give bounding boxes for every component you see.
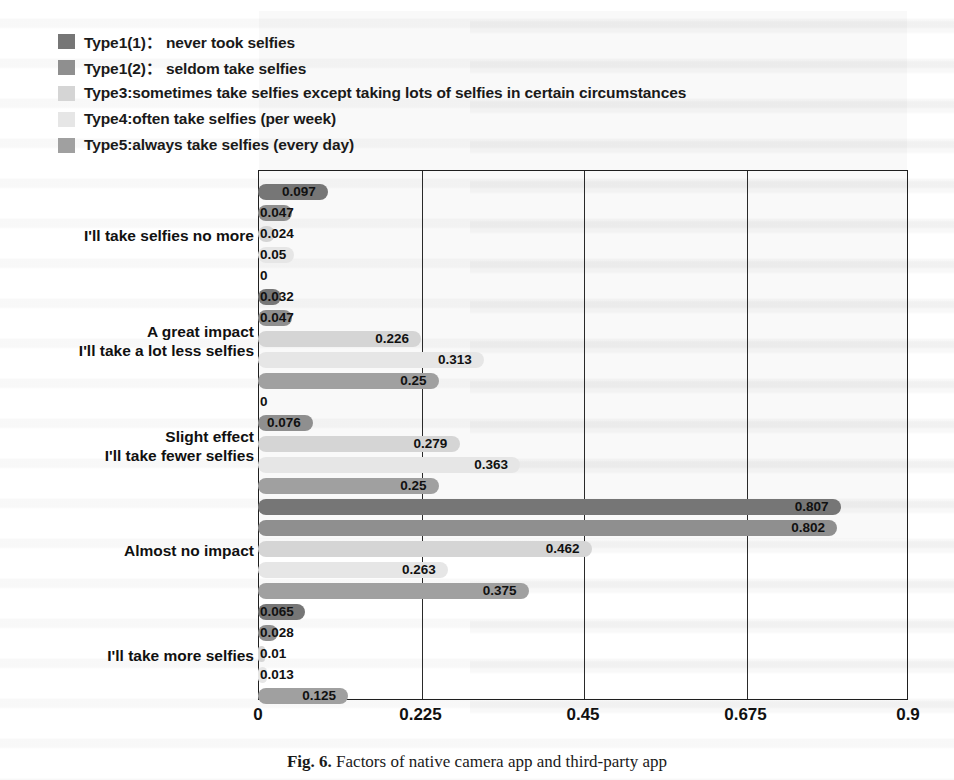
x-tick-label: 0 [253,705,262,725]
bar-value-label: 0.802 [791,519,825,537]
bar-value-label: 0 [260,267,268,285]
chart-legend: Type1(1)： never took selfiesType1(2)： se… [58,28,686,158]
bar-value-label: 0.313 [438,351,472,369]
bar-value-label: 0.076 [267,414,301,432]
bar-value-label: 0.01 [260,645,286,663]
category-label-line: I'll take fewer selfies [24,446,254,465]
legend-label: Type1(2)： seldom take selfies [84,56,306,78]
figure-caption-text: Factors of native camera app and third-p… [336,752,667,771]
bar-value-label: 0.25 [400,372,426,390]
bar-value-label: 0.013 [260,666,294,684]
bar-value-label: 0.279 [414,435,448,453]
bar[interactable] [258,520,837,536]
bar-value-label: 0.125 [302,687,336,705]
category-label-line: I'll take a lot less selfies [24,341,254,360]
bar-value-label: 0.807 [795,498,829,516]
category-label: I'll take more selfies [24,646,254,665]
category-label-line: Slight effect [24,427,254,446]
gridline-0.45 [584,171,585,699]
legend-label: Type5:always take selfies (every day) [84,136,354,154]
chart-plot-area: I'll take selfies no more0.0970.0470.024… [0,160,954,705]
bar-value-label: 0.024 [260,225,294,243]
bar-value-label: 0.047 [260,309,294,327]
legend-swatch-4 [58,112,75,127]
bar[interactable] [258,541,592,557]
category-label-line: Almost no impact [24,541,254,560]
legend-item: Type5:always take selfies (every day) [58,132,686,158]
bar-value-label: 0.065 [260,603,294,621]
legend-swatch-2 [58,60,75,75]
bar-value-label: 0.097 [282,183,316,201]
legend-item: Type1(1)： never took selfies [58,28,686,54]
bar-value-label: 0 [260,393,268,411]
bar-value-label: 0.25 [400,477,426,495]
bar-value-label: 0.375 [483,582,517,600]
bar-value-label: 0.226 [375,330,409,348]
figure-caption: Fig. 6. Factors of native camera app and… [0,752,954,772]
bar-value-label: 0.363 [474,456,508,474]
bar-value-label: 0.263 [402,561,436,579]
x-tick-label: 0.225 [399,705,442,725]
legend-swatch-1 [58,34,75,49]
plot-frame [258,170,908,700]
x-axis-tick-labels: 00.2250.450.6750.9 [0,705,954,735]
legend-item: Type1(2)： seldom take selfies [58,54,686,80]
category-label: Almost no impact [24,541,254,560]
category-label-line: A great impact [24,322,254,341]
legend-item: Type4:often take selfies (per week) [58,106,686,132]
bar-value-label: 0.05 [260,246,286,264]
x-tick-label: 0.45 [566,705,599,725]
category-label-line: I'll take selfies no more [24,226,254,245]
category-label-line: I'll take more selfies [24,646,254,665]
figure-number: Fig. 6. [287,752,332,771]
legend-label: Type1(1)： never took selfies [84,30,295,52]
category-label: I'll take selfies no more [24,226,254,245]
bar-value-label: 0.032 [260,288,294,306]
category-label: Slight effectI'll take fewer selfies [24,427,254,465]
x-tick-label: 0.675 [724,705,767,725]
gridline-0.675 [747,171,748,699]
legend-swatch-5 [58,138,75,153]
bar[interactable] [258,499,841,515]
legend-label: Type4:often take selfies (per week) [84,110,336,128]
bar-value-label: 0.047 [260,204,294,222]
legend-label: Type3:sometimes take selfies except taki… [84,84,686,102]
category-label: A great impactI'll take a lot less selfi… [24,322,254,360]
legend-item: Type3:sometimes take selfies except taki… [58,80,686,106]
legend-swatch-3 [58,86,75,101]
bar-value-label: 0.462 [546,540,580,558]
bar-value-label: 0.028 [260,624,294,642]
x-tick-label: 0.9 [896,705,920,725]
